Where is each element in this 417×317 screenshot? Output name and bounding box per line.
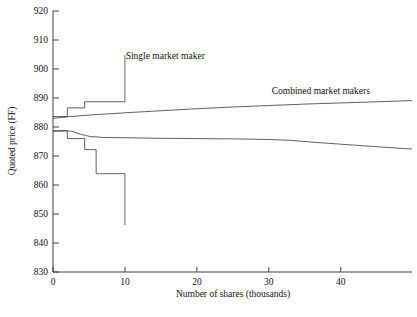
series-line	[53, 101, 412, 119]
y-tick-label: 870	[34, 151, 49, 161]
series-line	[53, 131, 125, 225]
chart-annotations: Single market makerCombined market maker…	[126, 51, 370, 96]
y-tick-label: 910	[34, 35, 49, 45]
x-tick-label: 10	[120, 277, 130, 287]
y-axis-group: 830840850860870880890900910920	[34, 6, 59, 277]
x-tick-label: 30	[264, 277, 274, 287]
y-tick-label: 830	[34, 267, 49, 277]
series-annotation-label: Combined market makers	[272, 86, 370, 96]
y-tick-label: 880	[34, 122, 49, 132]
series-annotation-label: Single market maker	[126, 51, 206, 61]
y-tick-label: 920	[34, 6, 49, 16]
x-tick-label: 40	[336, 277, 346, 287]
data-series-group	[53, 55, 412, 225]
x-tick-marks	[53, 267, 341, 272]
y-tick-label: 840	[34, 238, 49, 248]
y-tick-label: 890	[34, 93, 49, 103]
series-line	[53, 55, 125, 116]
x-axis-title: Number of shares (thousands)	[176, 289, 290, 300]
x-tick-label: 20	[192, 277, 202, 287]
y-tick-label: 900	[34, 64, 49, 74]
chart-figure: 830840850860870880890900910920 010203040…	[0, 0, 417, 317]
y-tick-labels: 830840850860870880890900910920	[34, 6, 49, 277]
y-tick-label: 860	[34, 180, 49, 190]
y-axis-title: Quoted price (FF)	[7, 107, 18, 176]
y-tick-marks	[53, 11, 59, 272]
x-axis-group: 010203040	[51, 267, 412, 287]
series-line	[53, 130, 412, 149]
x-tick-labels: 010203040	[51, 277, 346, 287]
chart-plot-area: 830840850860870880890900910920 010203040…	[0, 0, 417, 317]
x-tick-label: 0	[51, 277, 56, 287]
y-tick-label: 850	[34, 209, 49, 219]
